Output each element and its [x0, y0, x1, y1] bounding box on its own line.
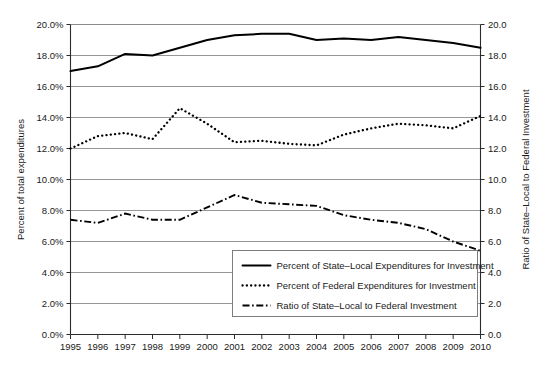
- left-tick-label: 4.0%: [42, 267, 64, 278]
- x-tick-label: 2008: [415, 341, 436, 352]
- left-tick-label: 12.0%: [37, 143, 64, 154]
- right-tick-label: 10.0: [488, 174, 507, 185]
- x-tick-label: 2007: [388, 341, 409, 352]
- x-tick-label: 1999: [169, 341, 190, 352]
- left-tick-label: 6.0%: [42, 236, 64, 247]
- x-tick-label: 2003: [279, 341, 300, 352]
- left-tick-label: 2.0%: [42, 298, 64, 309]
- right-tick-label: 18.0: [488, 50, 507, 61]
- right-tick-label: 2.0: [488, 298, 501, 309]
- x-tick-label: 2004: [306, 341, 327, 352]
- y-axis-title-left: Percent of total expenditures: [15, 119, 26, 240]
- right-tick-label: 6.0: [488, 236, 501, 247]
- right-tick-label: 14.0: [488, 112, 507, 123]
- chart-container: 1995199619971998199920002001200220032004…: [0, 0, 546, 367]
- legend-item[interactable]: Percent of Federal Expenditures for Inve…: [243, 280, 476, 291]
- right-tick-label: 20.0: [488, 19, 507, 30]
- left-tick-label: 8.0%: [42, 205, 64, 216]
- legend-label: Percent of Federal Expenditures for Inve…: [277, 280, 476, 291]
- left-tick-label: 20.0%: [37, 19, 64, 30]
- right-tick-label: 16.0: [488, 81, 507, 92]
- right-tick-label: 12.0: [488, 143, 507, 154]
- chart-legend: Percent of State–Local Expenditures for …: [233, 251, 494, 317]
- x-tick-label: 1996: [87, 341, 108, 352]
- x-tick-label: 2005: [333, 341, 354, 352]
- right-tick-label: 8.0: [488, 205, 501, 216]
- left-tick-label: 10.0%: [37, 174, 64, 185]
- x-tick-label: 1997: [115, 341, 136, 352]
- x-tick-label: 1998: [142, 341, 163, 352]
- x-tick-label: 2006: [361, 341, 382, 352]
- right-tick-label: 0.0: [488, 329, 501, 340]
- x-tick-label: 2000: [197, 341, 218, 352]
- x-tick-label: 2001: [224, 341, 245, 352]
- y-axis-title-right: Ratio of State–Local to Federal Investme…: [520, 89, 531, 269]
- x-tick-label: 1995: [60, 341, 81, 352]
- legend-label: Percent of State–Local Expenditures for …: [277, 260, 494, 271]
- x-tick-label: 2010: [470, 341, 491, 352]
- x-tick-label: 2009: [443, 341, 464, 352]
- left-tick-label: 18.0%: [37, 50, 64, 61]
- left-tick-label: 0.0%: [42, 329, 64, 340]
- legend-item[interactable]: Percent of State–Local Expenditures for …: [243, 260, 494, 271]
- left-tick-label: 14.0%: [37, 112, 64, 123]
- x-tick-label: 2002: [251, 341, 272, 352]
- line-chart: 1995199619971998199920002001200220032004…: [0, 0, 546, 367]
- legend-label: Ratio of State–Local to Federal Investme…: [277, 300, 457, 311]
- left-tick-label: 16.0%: [37, 81, 64, 92]
